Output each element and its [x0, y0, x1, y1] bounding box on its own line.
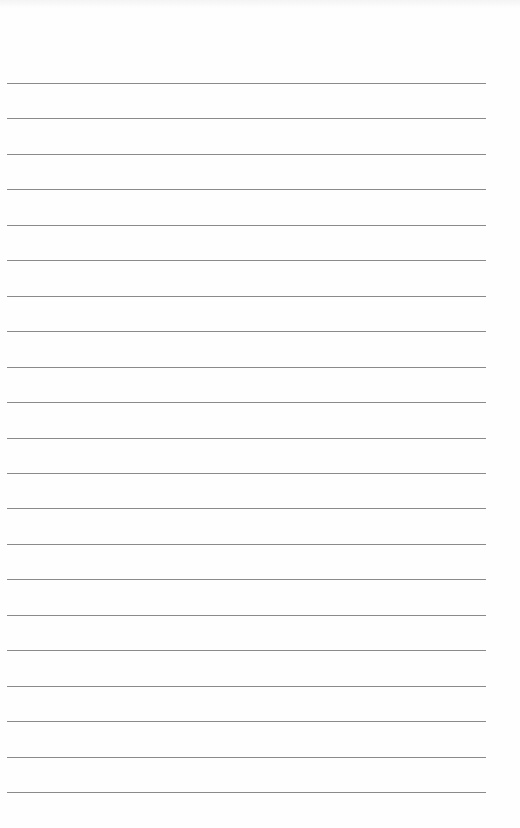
ruled-line [7, 402, 486, 403]
ruled-line [7, 154, 486, 155]
ruled-line [7, 686, 486, 687]
ruled-line [7, 189, 486, 190]
ruled-line [7, 615, 486, 616]
ruled-line [7, 473, 486, 474]
ruled-line [7, 650, 486, 651]
ruled-line [7, 544, 486, 545]
ruled-line [7, 579, 486, 580]
ruled-line [7, 508, 486, 509]
ruled-line [7, 118, 486, 119]
ruled-line [7, 367, 486, 368]
top-edge-shading [0, 0, 520, 8]
ruled-line [7, 331, 486, 332]
ruled-line [7, 260, 486, 261]
ruled-line [7, 83, 486, 84]
ruled-line [7, 296, 486, 297]
lined-paper-page [0, 0, 520, 828]
ruled-line [7, 438, 486, 439]
ruled-line [7, 757, 486, 758]
ruled-line [7, 225, 486, 226]
ruled-line [7, 721, 486, 722]
ruled-line [7, 792, 486, 793]
